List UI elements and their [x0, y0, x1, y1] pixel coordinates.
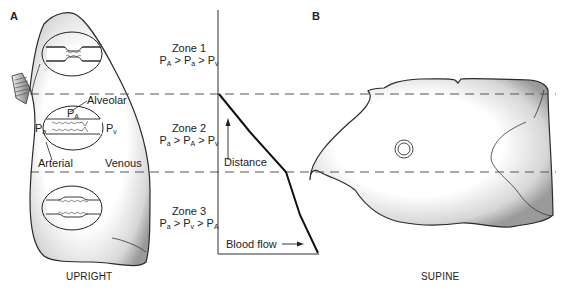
zone3-relation: Pa > Pv > PA [144, 217, 234, 229]
zone3-label: Zone 3 Pa > Pv > PA [144, 205, 234, 229]
flow-curve [219, 94, 318, 253]
zone2-name: Zone 2 [144, 122, 234, 134]
blood-flow-arrow-icon [297, 242, 304, 247]
zone1-name: Zone 1 [144, 42, 234, 54]
zone3-name: Zone 3 [144, 205, 234, 217]
venous-pressure-label: Pv [106, 122, 117, 134]
upright-caption: UPRIGHT [66, 271, 112, 283]
distance-axis-label: Distance [224, 156, 267, 168]
supine-lung [310, 79, 553, 228]
venous-label: Venous [105, 157, 142, 169]
zone1-relation: PA > Pa > Pv [144, 54, 234, 66]
supine-caption: SUPINE [421, 271, 459, 283]
zone2-label: Zone 2 Pa > PA > Pv [144, 122, 234, 146]
arterial-label: Arterial [38, 157, 73, 169]
zone1-label: Zone 1 PA > Pa > Pv [144, 42, 234, 66]
alveolar-label: Alveolar [87, 94, 127, 106]
bronchus-icon [12, 73, 30, 104]
panel-a-letter: A [10, 10, 18, 22]
diagram-artwork [0, 0, 563, 292]
zone2-relation: Pa > PA > Pv [144, 134, 234, 146]
blood-flow-axis-label: Blood flow [226, 238, 277, 250]
panel-b-letter: B [312, 10, 320, 22]
arterial-pressure-label: Pa [35, 122, 46, 134]
upright-lung [12, 13, 150, 266]
hilum-icon [395, 140, 413, 158]
lung-zones-diagram: A B Zone 1 PA > Pa > Pv Zone 2 Pa > PA >… [0, 0, 563, 292]
alveolar-pressure-label: PA [67, 107, 79, 119]
